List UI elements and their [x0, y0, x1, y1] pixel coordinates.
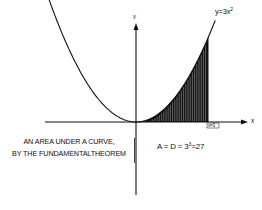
area-equation-prefix: A = D = 3	[157, 142, 189, 151]
curve-label-text: y=3x	[215, 7, 230, 16]
area-equation: A = D = 33=27	[157, 141, 204, 151]
y-axis-arrow	[134, 23, 139, 30]
curve-label: y=3x2	[215, 6, 233, 16]
shaded-area	[136, 38, 208, 123]
caption-line-2: BY THE FUNDAMENTALTHEOREM	[5, 148, 133, 160]
area-equation-suffix: =27	[191, 142, 204, 151]
x-axis-arrow	[241, 120, 248, 125]
y-axis-label: y	[133, 13, 136, 19]
area-under-curve-figure	[0, 0, 262, 210]
caption-line-1: AN AREA UNDER A CURVE,	[5, 136, 133, 148]
curve-label-exponent: 2	[230, 6, 233, 12]
boundary-label: x=3	[208, 123, 215, 128]
x-axis-label: x	[251, 117, 254, 124]
